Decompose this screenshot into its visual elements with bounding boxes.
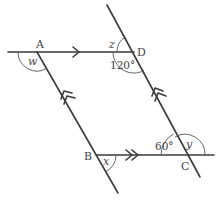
vertex-label-C: C: [181, 160, 189, 173]
angle-arc-z: [117, 37, 126, 52]
angle-label-x: x: [103, 155, 110, 168]
angle-label-y: y: [185, 138, 193, 151]
vertex-label-B: B: [84, 150, 92, 163]
angle-label-120: 120°: [110, 59, 135, 71]
angle-label-z: z: [108, 38, 115, 51]
angle-label-60: 60°: [155, 140, 174, 152]
vertex-label-A: A: [35, 38, 45, 51]
parallel-arrow-DC-2: [155, 93, 166, 101]
line-AB: [37, 52, 118, 193]
angle-label-w: w: [28, 55, 38, 68]
vertex-label-D: D: [137, 46, 146, 59]
parallelogram-diagram: A D B C w z 120° x 60° y: [0, 0, 218, 202]
